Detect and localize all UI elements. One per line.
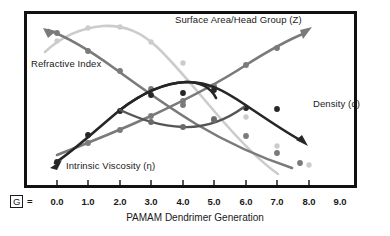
series-label-refractive-index: Refractive Index [31,58,101,69]
series-label-intrinsic-viscosity: Intrinsic Viscosity (η) [66,160,155,171]
data-point [54,30,60,36]
data-point [180,124,186,130]
x-tick-label-4: 4.0 [168,196,198,207]
x-tick-label-9: 9.0 [325,196,355,207]
data-point [306,162,311,167]
data-point [274,143,279,148]
x-tick-label-2: 2.0 [105,196,135,207]
data-point [85,132,91,138]
data-point [243,62,249,68]
data-point [180,90,186,96]
data-point [180,60,185,65]
data-point [274,106,280,112]
data-point [211,117,217,123]
data-point [211,87,217,93]
data-point [148,39,153,44]
data-point [117,127,123,133]
data-point [243,133,249,139]
x-axis-title: PAMAM Dendrimer Generation [0,212,390,223]
data-point [274,45,280,51]
x-tick-label-7: 7.0 [262,196,292,207]
data-point [54,159,60,165]
x-tick-label-0: 0.0 [42,196,72,207]
generation-symbol-box: G [10,195,23,208]
series-label-density: Density (d) [313,98,360,109]
x-tick-label-1: 1.0 [73,196,103,207]
x-tick-label-6: 6.0 [231,196,261,207]
series-label-surface-area: Surface Area/Head Group (Z) [175,14,302,25]
chart-figure: Surface Area/Head Group (Z) Refractive I… [0,0,390,236]
data-point [85,140,91,146]
data-point [180,98,186,104]
data-point [148,113,154,119]
data-point [54,38,59,43]
generation-equals-sign: = [27,196,33,207]
data-point [117,68,123,74]
x-tick-label-5: 5.0 [199,196,229,207]
data-point [85,48,91,54]
data-point [148,119,154,125]
data-point [297,160,303,166]
x-tick-label-8: 8.0 [294,196,324,207]
data-point [117,24,122,29]
x-tick-label-3: 3.0 [136,196,166,207]
data-point [274,150,280,156]
data-point [148,92,154,98]
data-point [243,114,248,119]
data-point [85,25,90,30]
